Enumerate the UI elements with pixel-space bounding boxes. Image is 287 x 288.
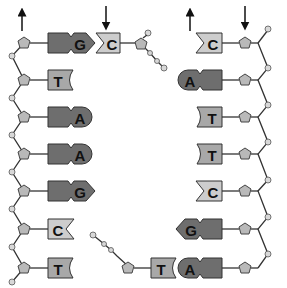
right-backbone <box>222 26 271 273</box>
base-C: C <box>96 33 120 53</box>
sugar-icon <box>239 37 251 273</box>
base-T: T <box>151 258 176 278</box>
left-backbone <box>9 37 48 285</box>
right-fragment-backbone <box>90 232 151 273</box>
base-A: A <box>178 258 222 278</box>
left-fragment-backbone <box>120 30 167 71</box>
base-A: A <box>48 107 92 127</box>
base-T: T <box>197 107 222 127</box>
base-C: C <box>196 181 222 201</box>
base-G: G <box>176 219 222 239</box>
base-C: C <box>196 33 222 53</box>
svg-text:A: A <box>185 73 196 90</box>
base-C: C <box>48 219 74 239</box>
svg-text:T: T <box>156 261 165 278</box>
base-G: G <box>48 181 95 201</box>
svg-text:T: T <box>53 73 62 90</box>
base-A: A <box>178 70 222 90</box>
svg-text:G: G <box>74 184 86 201</box>
svg-text:C: C <box>107 36 118 53</box>
direction-arrows <box>22 6 245 31</box>
svg-text:T: T <box>207 110 216 127</box>
svg-text:C: C <box>53 222 64 239</box>
base-T: T <box>197 144 222 164</box>
svg-text:C: C <box>208 184 219 201</box>
svg-text:G: G <box>74 36 86 53</box>
svg-text:A: A <box>75 110 86 127</box>
svg-text:G: G <box>185 222 197 239</box>
dna-diagram: G T A A G C T C <box>0 0 287 288</box>
svg-text:A: A <box>185 261 196 278</box>
svg-text:A: A <box>75 147 86 164</box>
base-G: G <box>48 33 95 53</box>
base-T: T <box>48 70 73 90</box>
svg-text:T: T <box>207 147 216 164</box>
phosphate-icon <box>265 65 271 257</box>
svg-text:C: C <box>208 36 219 53</box>
base-T: T <box>48 258 73 278</box>
base-A: A <box>48 144 92 164</box>
svg-text:T: T <box>53 261 62 278</box>
